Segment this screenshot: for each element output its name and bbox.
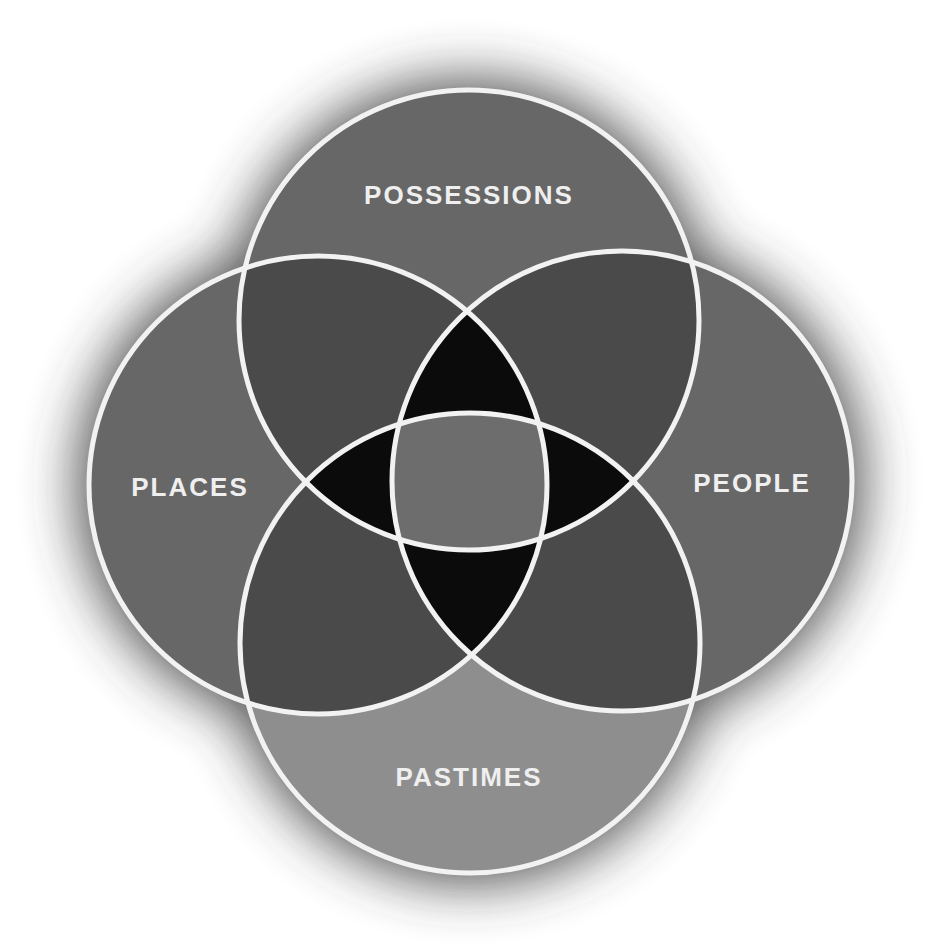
label-possessions: POSSESSIONS (364, 180, 574, 210)
label-pastimes: PASTIMES (396, 762, 543, 792)
venn-diagram: POSSESSIONS PLACES PEOPLE PASTIMES (0, 0, 926, 952)
label-places: PLACES (131, 472, 248, 502)
label-people: PEOPLE (693, 468, 810, 498)
